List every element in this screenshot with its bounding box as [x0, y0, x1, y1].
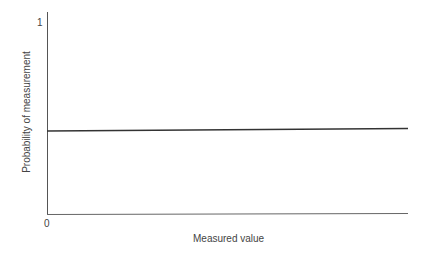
- chart-canvas: [0, 0, 428, 254]
- origin-label: 0: [44, 218, 50, 229]
- x-axis-label: Measured value: [193, 233, 264, 244]
- y-axis-label: Probability of measurement: [21, 51, 32, 173]
- y-tick-1: 1: [37, 17, 43, 28]
- distribution-line: [47, 129, 408, 132]
- x-axis: [47, 214, 408, 215]
